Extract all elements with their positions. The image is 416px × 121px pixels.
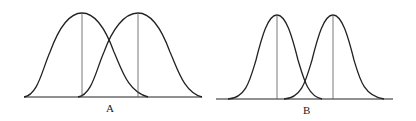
panel-a-curve-left [24,13,148,97]
panel-a [24,13,202,97]
panel-b-curve-left [228,15,322,99]
panel-a-label: A [106,102,114,114]
panel-b-curve-right [284,15,384,99]
panel-a-curve-right [78,13,202,97]
figure-canvas: A B [0,0,416,121]
panel-b-label: B [303,104,310,116]
distribution-diagram [0,0,416,121]
panel-b [216,15,393,99]
